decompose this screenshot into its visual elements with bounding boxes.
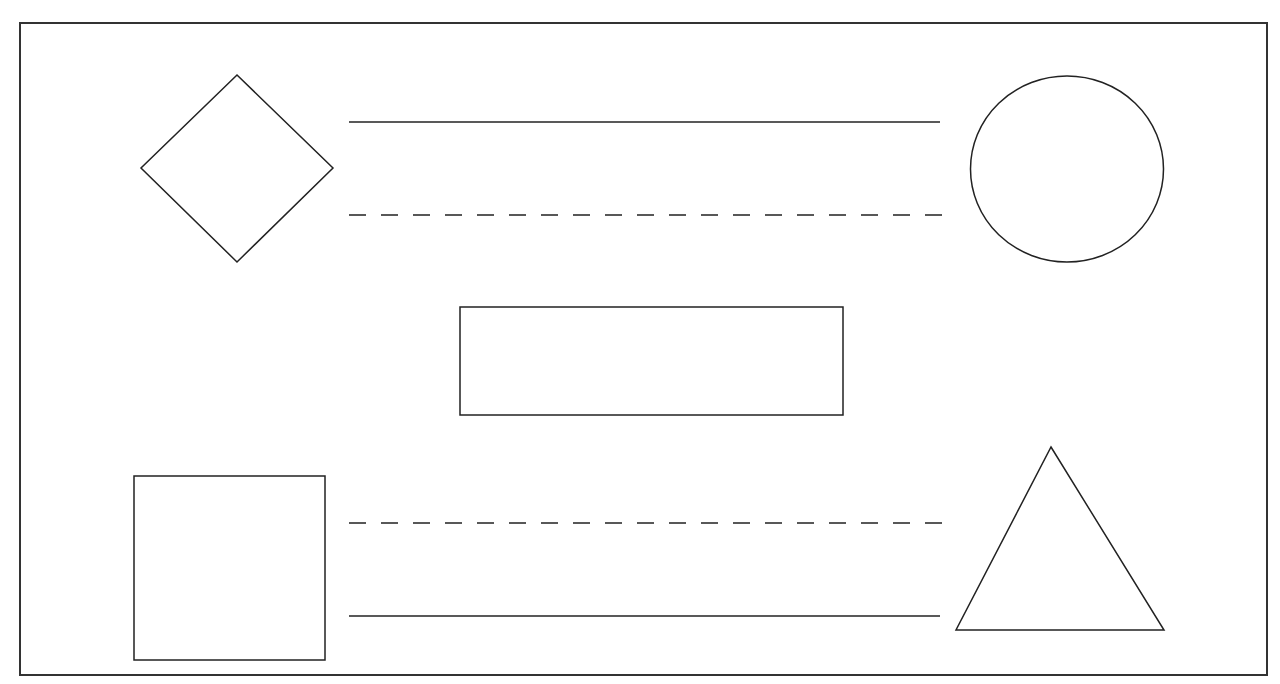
diamond-shape xyxy=(141,75,333,262)
square-shape xyxy=(134,476,325,660)
circle-shape xyxy=(971,76,1164,262)
triangle-shape xyxy=(956,447,1164,630)
rectangle-shape xyxy=(460,307,843,415)
connector-lines xyxy=(349,122,942,616)
outer-frame xyxy=(20,23,1267,675)
diagram-canvas xyxy=(0,0,1280,684)
